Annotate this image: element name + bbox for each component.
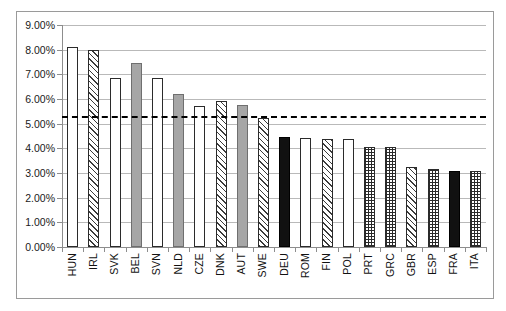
x-label-rom: ROM [300,253,311,278]
bar-prt[interactable] [364,147,375,247]
y-tick-mark [57,25,62,26]
x-tick-mark [83,248,84,252]
bars-layer [62,25,486,247]
x-tick-mark [422,248,423,252]
bar-bel[interactable] [131,63,142,247]
y-tick-label: 8.00% [25,45,55,56]
y-tick-mark [57,148,62,149]
x-label-bel: BEL [130,253,141,273]
x-label-svn: SVN [151,253,162,275]
bar-grc[interactable] [385,147,396,247]
bar-irl[interactable] [88,50,99,247]
x-label-irl: IRL [88,253,99,270]
x-label-fin: FIN [321,253,332,271]
bar-svn[interactable] [152,78,163,247]
x-label-prt: PRT [363,253,374,274]
y-tick-label: 7.00% [25,69,55,80]
x-tick-mark [274,248,275,252]
x-tick-mark [168,248,169,252]
x-label-esp: ESP [427,253,438,275]
y-tick-label: 5.00% [25,119,55,130]
y-tick-mark [57,99,62,100]
y-tick-mark [57,50,62,51]
x-label-aut: AUT [236,253,247,275]
x-label-hun: HUN [67,253,78,276]
y-tick-label: 0.00% [25,242,55,253]
x-tick-mark [444,248,445,252]
x-label-grc: GRC [385,253,396,277]
bar-svk[interactable] [110,78,121,247]
bar-esp[interactable] [428,169,439,247]
bar-gbr[interactable] [406,167,417,247]
reference-line-threshold [62,116,486,118]
y-tick-mark [57,74,62,75]
x-label-deu: DEU [279,253,290,276]
bar-fin[interactable] [322,139,333,247]
y-tick-mark [57,173,62,174]
x-tick-mark [465,248,466,252]
x-label-ita: ITA [469,253,480,269]
bar-deu[interactable] [279,137,290,248]
x-label-pol: POL [342,253,353,275]
x-tick-mark [338,248,339,252]
x-tick-mark [380,248,381,252]
x-label-fra: FRA [448,253,459,275]
bar-hun[interactable] [67,47,78,247]
x-label-swe: SWE [257,253,268,278]
x-tick-mark [316,248,317,252]
x-tick-mark [126,248,127,252]
y-tick-mark [57,124,62,125]
y-tick-mark [57,222,62,223]
bar-pol[interactable] [343,139,354,247]
x-tick-mark [401,248,402,252]
y-tick-label: 1.00% [25,217,55,228]
y-tick-label: 3.00% [25,168,55,179]
x-tick-mark [147,248,148,252]
y-tick-mark [57,198,62,199]
y-axis-labels: 9.00%8.00%7.00%6.00%5.00%4.00%3.00%2.00%… [0,0,55,311]
bar-rom[interactable] [300,138,311,247]
x-tick-mark [253,248,254,252]
x-tick-mark [486,248,487,252]
x-label-dnk: DNK [215,253,226,276]
x-tick-mark [359,248,360,252]
x-tick-mark [62,248,63,252]
x-axis-labels: HUNIRLSVKBELSVNNLDCZEDNKAUTSWEDEUROMFINP… [62,247,486,311]
x-label-gbr: GBR [406,253,417,276]
bar-swe[interactable] [258,118,269,247]
bar-cze[interactable] [194,106,205,247]
x-tick-mark [295,248,296,252]
x-label-svk: SVK [109,253,120,275]
chart-container: 9.00%8.00%7.00%6.00%5.00%4.00%3.00%2.00%… [0,0,506,311]
x-tick-mark [210,248,211,252]
bar-aut[interactable] [237,105,248,247]
bar-ita[interactable] [470,171,481,247]
y-tick-label: 2.00% [25,193,55,204]
x-label-nld: NLD [173,253,184,275]
x-tick-mark [104,248,105,252]
x-tick-mark [189,248,190,252]
bar-fra[interactable] [449,171,460,247]
y-tick-label: 4.00% [25,143,55,154]
y-tick-label: 6.00% [25,94,55,105]
x-tick-mark [232,248,233,252]
y-tick-label: 9.00% [25,20,55,31]
bar-dnk[interactable] [216,101,227,247]
x-label-cze: CZE [194,253,205,275]
